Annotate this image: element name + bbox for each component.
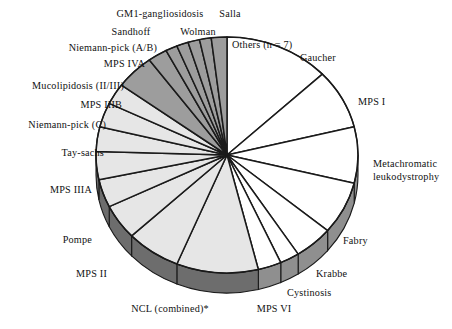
pie-label-niemann-pick-c: Niemann-pick (C) [2, 119, 106, 131]
pie-label-metachromatic-line1: Metachromatic [373, 158, 451, 170]
pie-label-metachromatic-line2: leukodystrophy [373, 171, 452, 183]
pie-label-gaucher: Gaucher [300, 52, 380, 64]
pie-top-face [96, 37, 358, 273]
pie-label-cystinosis: Cystinosis [287, 287, 359, 299]
pie-label-mps-iiib: MPS IIIB [30, 99, 122, 111]
pie-chart-figure: GM1-gangliosidosis Salla Sandhoff Wolman… [0, 0, 452, 329]
pie-label-fabry: Fabry [343, 235, 403, 247]
pie-label-pompe: Pompe [30, 234, 92, 246]
pie-label-niemann-pick-ab: Niemann-pick (A/B) [32, 42, 157, 54]
pie-label-ncl-combined: NCL (combined)* [115, 303, 225, 315]
pie-label-tay-sachs: Tay-sachs [26, 147, 104, 159]
pie-label-mps-iva: MPS IVA [45, 58, 145, 70]
pie-label-salla: Salla [200, 8, 260, 20]
pie-label-others: Others (n = 7) [232, 39, 327, 51]
pie-label-sandhoff: Sandhoff [95, 26, 167, 38]
pie-label-mps-ii: MPS II [45, 268, 107, 280]
pie-label-mps-i: MPS I [358, 96, 428, 108]
pie-label-mps-iiia: MPS IIIA [20, 184, 92, 196]
pie-label-krabbe: Krabbe [316, 268, 376, 280]
pie-label-mps-vi: MPS VI [243, 303, 305, 315]
pie-label-mucolipidosis: Mucolipidosis (II/III) [8, 80, 124, 92]
pie-label-wolman: Wolman [167, 26, 229, 38]
